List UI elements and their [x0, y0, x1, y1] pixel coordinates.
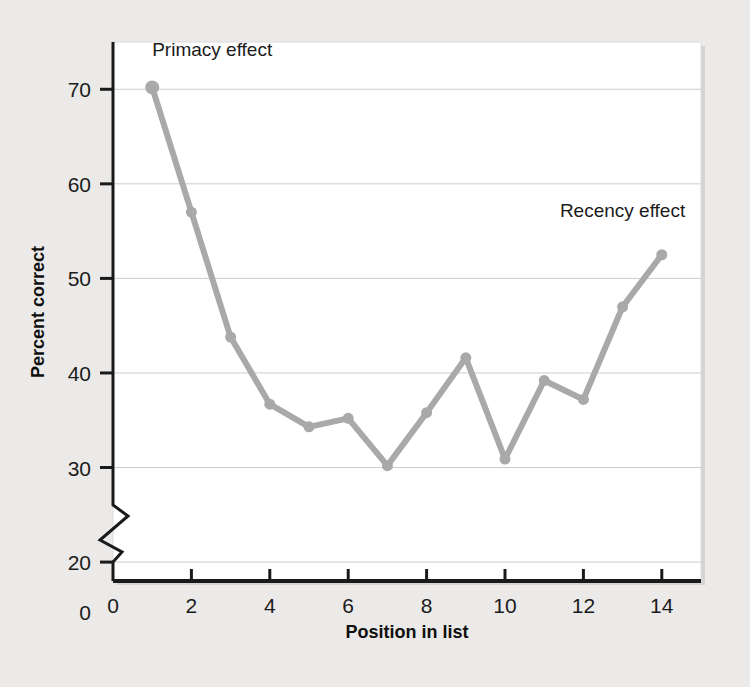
data-point-14 — [656, 249, 667, 260]
plot-area-background — [113, 42, 701, 581]
data-point-12 — [578, 394, 589, 405]
x-tick-label-12: 12 — [572, 594, 595, 617]
data-point-3 — [225, 332, 236, 343]
data-point-13 — [617, 301, 628, 312]
x-tick-label-8: 8 — [421, 594, 433, 617]
data-point-8 — [421, 407, 432, 418]
data-point-7 — [382, 460, 393, 471]
y-axis-title: Percent correct — [28, 246, 48, 378]
x-tick-label-6: 6 — [342, 594, 354, 617]
annotation-primacy-effect: Primacy effect — [152, 39, 273, 60]
y-tick-label-40: 40 — [68, 362, 91, 385]
data-point-6 — [343, 413, 354, 424]
data-point-11 — [539, 375, 550, 386]
x-tick-label-14: 14 — [650, 594, 674, 617]
y-tick-label-30: 30 — [68, 457, 91, 480]
y-tick-label-70: 70 — [68, 78, 91, 101]
data-point-9 — [460, 352, 471, 363]
data-point-10 — [500, 454, 511, 465]
x-axis-title: Position in list — [345, 622, 468, 642]
x-tick-label-4: 4 — [264, 594, 276, 617]
x-tick-label-0: 0 — [107, 594, 119, 617]
y-tick-label-20: 20 — [68, 551, 91, 574]
data-point-1 — [145, 80, 159, 94]
x-tick-label-2: 2 — [186, 594, 198, 617]
data-point-4 — [264, 399, 275, 410]
annotation-recency-effect: Recency effect — [560, 200, 686, 221]
serial-position-curve-chart: 2030405060700 02468101214 Primacy effect… — [0, 0, 750, 687]
figure-panel: 2030405060700 02468101214 Primacy effect… — [0, 0, 750, 687]
data-point-2 — [186, 207, 197, 218]
y-tick-label-zero: 0 — [79, 601, 91, 624]
y-tick-label-60: 60 — [68, 173, 91, 196]
x-tick-label-10: 10 — [493, 594, 516, 617]
data-point-5 — [304, 421, 315, 432]
y-tick-label-50: 50 — [68, 267, 91, 290]
